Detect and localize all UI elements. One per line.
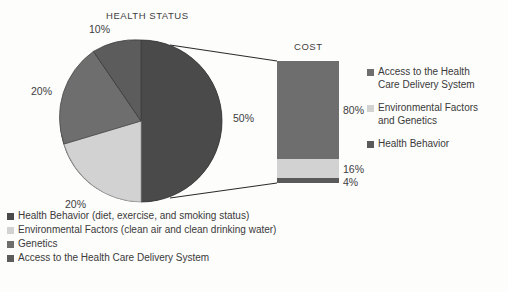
legend-swatch-icon bbox=[7, 213, 14, 220]
cost-bar-segment-access bbox=[277, 61, 339, 159]
pie-slice-health-behavior bbox=[141, 40, 222, 202]
cost-title: COST bbox=[294, 41, 323, 52]
legend-item: Genetics bbox=[7, 238, 347, 251]
cost-legend: Access to the Health Care Delivery Syste… bbox=[367, 66, 505, 162]
legend-swatch-icon bbox=[367, 141, 374, 148]
cost-label-16-percent: 16% bbox=[343, 163, 364, 175]
legend-item-label: Access to the Health Care Delivery Syste… bbox=[18, 252, 209, 265]
cost-label-80-percent: 80% bbox=[343, 104, 364, 116]
pie-label-20-percent-environmental: 20% bbox=[65, 198, 86, 210]
pie-legend: Health Behavior (diet, exercise, and smo… bbox=[7, 210, 347, 266]
legend-swatch-icon bbox=[7, 227, 14, 234]
cost-bar-segment-health-behavior bbox=[277, 178, 339, 183]
legend-item: Environmental Factors (clean air and cle… bbox=[7, 224, 347, 237]
pie-label-10-percent: 10% bbox=[89, 23, 110, 35]
pie-label-50-percent: 50% bbox=[233, 112, 254, 124]
cost-stacked-bar bbox=[277, 61, 339, 183]
legend-item-label: Genetics bbox=[18, 238, 57, 251]
cost-bar-segment-environmental-genetics bbox=[277, 159, 339, 179]
legend-swatch-icon bbox=[367, 105, 374, 112]
pie-label-20-percent-genetics: 20% bbox=[31, 85, 52, 97]
legend-item-label: Access to the Health Care Delivery Syste… bbox=[378, 66, 475, 91]
health-status-title: HEALTH STATUS bbox=[106, 10, 189, 21]
legend-item-label: Environmental Factors (clean air and cle… bbox=[18, 224, 276, 237]
legend-item: Access to the Health Care Delivery Syste… bbox=[7, 252, 347, 265]
legend-swatch-icon bbox=[7, 241, 14, 248]
legend-swatch-icon bbox=[7, 255, 14, 262]
legend-item-label: Health Behavior bbox=[378, 138, 449, 151]
cost-label-4-percent: 4% bbox=[343, 176, 358, 188]
legend-item: Health Behavior (diet, exercise, and smo… bbox=[7, 210, 347, 223]
legend-item: Environmental Factors and Genetics bbox=[367, 102, 505, 127]
legend-item-label: Environmental Factors and Genetics bbox=[378, 102, 478, 127]
pie-chart bbox=[58, 38, 224, 204]
legend-item: Health Behavior bbox=[367, 138, 505, 151]
legend-swatch-icon bbox=[367, 69, 374, 76]
chart-figure: HEALTH STATUS COST 10% 20% 20% 50% 80% 1… bbox=[0, 0, 508, 292]
legend-item-label: Health Behavior (diet, exercise, and smo… bbox=[18, 210, 249, 223]
legend-item: Access to the Health Care Delivery Syste… bbox=[367, 66, 505, 91]
